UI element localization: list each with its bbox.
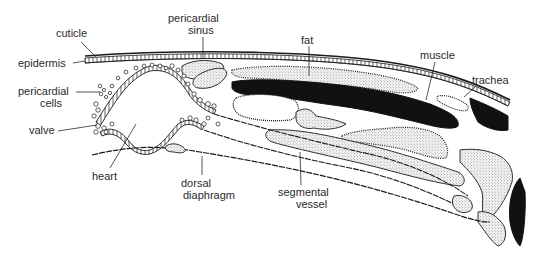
leader-epidermis [73, 61, 85, 63]
leader-valve [58, 125, 97, 131]
label-epidermis: epidermis [18, 57, 66, 69]
label-fat: fat [301, 34, 313, 46]
anatomy-diagram: cuticle epidermis pericardial cells valv… [0, 0, 534, 258]
label-pericardial-sinus-1: pericardial [168, 12, 219, 24]
label-pericardial-cells-2: cells [40, 97, 63, 109]
label-dorsal-diaphragm-2: diaphragm [183, 189, 235, 201]
alary-tissue-bottom [478, 212, 506, 246]
diaphragm-cells [165, 144, 185, 153]
fat-body-mid [296, 109, 346, 129]
leader-cuticle [81, 42, 96, 57]
label-segmental-vessel-1: segmental [278, 186, 329, 198]
label-trachea: trachea [472, 74, 510, 86]
vessel-end-cell [452, 195, 472, 212]
label-muscle: muscle [420, 49, 455, 61]
heart-ventral-wall [100, 120, 204, 154]
label-pericardial-cells-1: pericardial [18, 85, 69, 97]
leader-muscle [426, 62, 435, 100]
label-heart: heart [92, 170, 117, 182]
label-pericardial-sinus-2: sinus [188, 24, 214, 36]
label-dorsal-diaphragm-1: dorsal [181, 177, 211, 189]
label-cuticle: cuticle [56, 27, 87, 39]
dotted-organ [233, 94, 298, 120]
label-valve: valve [29, 124, 55, 136]
muscle-block-right-lower [509, 178, 525, 246]
dorsal-diaphragm [92, 147, 490, 222]
label-segmental-vessel-2: vessel [296, 198, 327, 210]
